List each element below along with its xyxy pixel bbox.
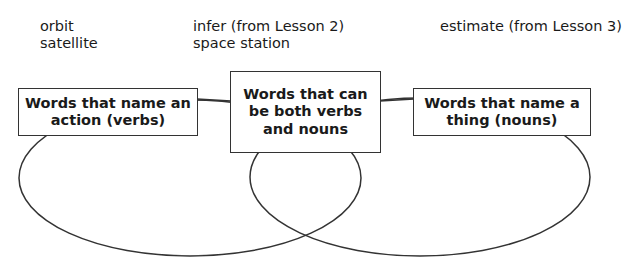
both-label-box: Words that can be both verbs and nouns	[230, 71, 381, 153]
verbs-label: Words that name an action (verbs)	[23, 95, 193, 130]
nouns-label: Words that name a thing (nouns)	[418, 95, 586, 130]
verbs-label-box: Words that name an action (verbs)	[18, 88, 198, 136]
nouns-label-box: Words that name a thing (nouns)	[413, 88, 591, 136]
both-label: Words that can be both verbs and nouns	[235, 86, 376, 139]
